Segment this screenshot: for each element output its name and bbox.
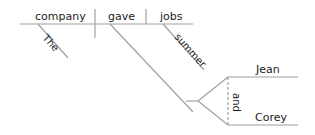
word-subject: company <box>35 11 86 22</box>
word-verb: gave <box>108 11 135 22</box>
word-conjunction: and <box>231 93 241 112</box>
fork-upper <box>198 77 228 101</box>
word-direct-object: jobs <box>160 11 183 22</box>
fork-lower <box>198 101 228 125</box>
word-indirect-object-1: Jean <box>256 64 280 75</box>
word-indirect-object-2: Corey <box>255 112 287 123</box>
sentence-diagram: company gave jobs The summer Jean Corey … <box>0 0 315 135</box>
